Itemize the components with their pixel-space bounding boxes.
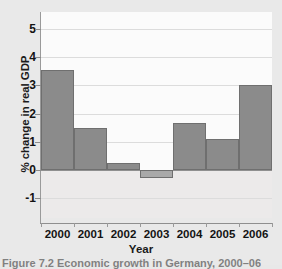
x-tick-label: 2001 (78, 228, 104, 240)
x-tick-mark (173, 223, 174, 227)
bar (239, 85, 271, 170)
gridline (41, 198, 272, 199)
gridline (41, 85, 272, 86)
y-tick-label: 2 (14, 107, 36, 121)
bar (173, 123, 205, 170)
figure-caption: Figure 7.2 Economic growth in Germany, 2… (0, 257, 282, 269)
x-tick-label: 2006 (243, 228, 269, 240)
y-tick-mark (35, 29, 41, 30)
gridline (41, 57, 272, 58)
x-tick-mark (41, 223, 42, 227)
bar (107, 163, 139, 170)
x-tick-mark (107, 223, 108, 227)
bar (74, 128, 106, 170)
y-axis-tick-labels: -1012345 (14, 0, 36, 265)
y-tick-label: 3 (14, 78, 36, 92)
y-tick-mark (35, 114, 41, 115)
bar (140, 170, 172, 178)
y-tick-mark (35, 170, 41, 171)
y-tick-label: 1 (14, 135, 36, 149)
x-tick-label: 2004 (177, 228, 203, 240)
x-tick-label: 2005 (210, 228, 236, 240)
x-tick-label: 2000 (45, 228, 71, 240)
y-tick-label: 5 (14, 22, 36, 36)
y-tick-mark (35, 85, 41, 86)
y-tick-mark (35, 198, 41, 199)
x-tick-label: 2002 (111, 228, 137, 240)
x-axis-label: Year (0, 243, 282, 255)
x-tick-mark (206, 223, 207, 227)
x-tick-mark (140, 223, 141, 227)
gridline (41, 29, 272, 30)
bar (41, 70, 73, 170)
x-tick-label: 2003 (144, 228, 170, 240)
y-tick-label: 0 (14, 163, 36, 177)
y-tick-label: 4 (14, 50, 36, 64)
gridline (41, 114, 272, 115)
y-tick-label: -1 (14, 191, 36, 205)
x-tick-mark (272, 223, 273, 227)
x-tick-mark (239, 223, 240, 227)
y-tick-mark (35, 142, 41, 143)
x-tick-mark (74, 223, 75, 227)
y-tick-mark (35, 57, 41, 58)
plot-area (41, 12, 272, 218)
bar (206, 139, 238, 170)
